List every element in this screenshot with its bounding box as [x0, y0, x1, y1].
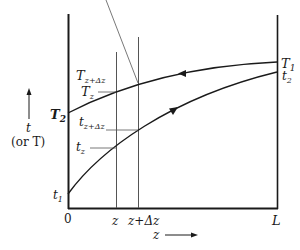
leader-Tzdz: [106, 0, 138, 83]
y-axis-label-t: t: [26, 121, 31, 135]
hot-flow-arrow-icon: [178, 70, 186, 77]
label-T-z: Tz: [81, 84, 95, 101]
label-T2: T2: [50, 107, 66, 124]
x-arrowhead-icon: [191, 233, 198, 238]
x-axis-label: z: [152, 228, 160, 242]
diagram-canvas: T1 t2 T2 t1 Tz+Δz Tz tz+Δz tz 0 z z+Δz L…: [0, 0, 300, 250]
label-t-z: tz: [76, 140, 86, 156]
hot-fluid-curve: [68, 62, 277, 113]
label-t-z-plus-dz: tz+Δz: [79, 115, 106, 131]
y-axis-label-or-T: (or T): [11, 135, 45, 149]
tick-z-plus-dz: z+Δz: [127, 214, 160, 228]
tick-L: L: [271, 213, 281, 228]
label-t1: t1: [53, 188, 63, 204]
tick-0: 0: [64, 212, 72, 226]
label-T-z-plus-dz: Tz+Δz: [76, 68, 106, 85]
cold-fluid-curve: [68, 72, 277, 194]
y-arrowhead-icon: [27, 88, 32, 95]
tick-z: z: [111, 214, 119, 228]
